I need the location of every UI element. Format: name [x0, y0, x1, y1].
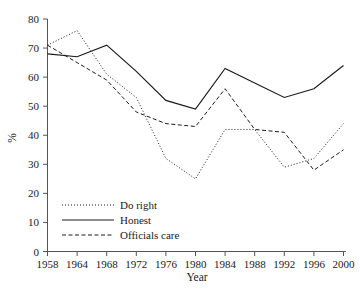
y-tick-label: 20: [28, 187, 40, 199]
y-tick-label: 0: [34, 246, 40, 258]
x-tick-label: 1992: [273, 258, 295, 270]
x-tick-label: 1972: [125, 258, 147, 270]
y-tick-label: 10: [28, 216, 40, 228]
x-axis-title: Year: [186, 271, 207, 283]
legend-label: Do right: [120, 199, 157, 211]
chart-container: 01020304050607080 1958196419681972197619…: [0, 0, 360, 297]
x-tick-label: 1976: [155, 258, 178, 270]
x-tick-label: 1964: [66, 258, 89, 270]
x-tick-label: 1984: [214, 258, 237, 270]
x-tick-label: 1980: [185, 258, 208, 270]
y-tick-label: 30: [28, 158, 40, 170]
line-chart: 01020304050607080 1958196419681972197619…: [0, 0, 360, 297]
y-tick-label: 40: [28, 129, 40, 141]
x-tick-label: 1988: [244, 258, 267, 270]
y-tick-label: 80: [28, 13, 40, 25]
y-tick-label: 70: [28, 42, 40, 54]
y-tick-label: 50: [28, 100, 40, 112]
x-tick-label: 1996: [303, 258, 326, 270]
chart-background: [0, 0, 360, 297]
y-tick-label: 60: [28, 71, 40, 83]
x-tick-label: 1968: [96, 258, 119, 270]
x-tick-label: 1958: [37, 258, 60, 270]
legend-label: Honest: [120, 214, 151, 226]
x-tick-label: 2000: [333, 258, 356, 270]
legend-label: Officials care: [120, 229, 179, 241]
y-axis-title: %: [6, 133, 18, 143]
